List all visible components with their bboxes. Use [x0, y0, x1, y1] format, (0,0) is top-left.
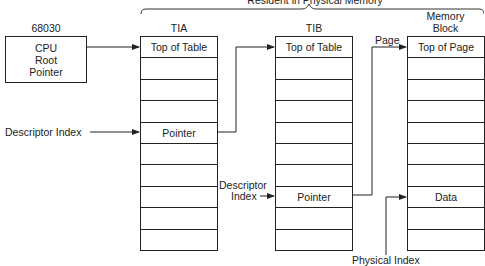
page-label: Page: [375, 34, 400, 46]
tia-title: TIA: [140, 22, 218, 34]
tib-row: [276, 165, 352, 186]
memory-block-row: [408, 80, 484, 101]
descriptor-index-label-tia: Descriptor Index: [5, 126, 81, 138]
cpu-line: CPU: [35, 42, 57, 54]
tia-row: [141, 58, 217, 79]
memory-block-row: [408, 144, 484, 165]
arrow-tib-pointer-to-page: [353, 47, 406, 195]
resident-label: Resident in Physical Memory: [245, 0, 385, 6]
cpu-root-pointer-box: CPU Root Pointer: [5, 36, 87, 83]
tib-row: [276, 80, 352, 101]
memory-block-row: [408, 123, 484, 144]
tia-row: [141, 80, 217, 101]
tia-row: [141, 101, 217, 122]
tib-row: [276, 101, 352, 122]
cpu-caption: 68030: [5, 22, 87, 34]
tib-table: Top of TablePointer: [275, 36, 353, 251]
tib-row: Top of Table: [276, 37, 352, 58]
memory-block-row: [408, 230, 484, 251]
arrow-tia-pointer-to-tib: [218, 47, 274, 132]
tib-row: [276, 144, 352, 165]
cpu-line: Root: [35, 54, 57, 66]
tia-row: [141, 165, 217, 186]
tib-title: TIB: [275, 22, 353, 34]
tib-row: Pointer: [276, 187, 352, 208]
descriptor-index-label-tib-line2: Index: [231, 190, 257, 202]
tia-row: Pointer: [141, 123, 217, 144]
memory-block-table: Top of PageData: [407, 36, 485, 251]
tib-row: [276, 230, 352, 251]
memory-block-row: Data: [408, 187, 484, 208]
memory-block-row: [408, 165, 484, 186]
tib-row: [276, 58, 352, 79]
tib-row: [276, 208, 352, 229]
tia-row: [141, 187, 217, 208]
memory-block-row: [408, 58, 484, 79]
memory-block-row: [408, 208, 484, 229]
memory-block-row: Top of Page: [408, 37, 484, 58]
tia-row: Top of Table: [141, 37, 217, 58]
memory-block-row: [408, 101, 484, 122]
tib-row: [276, 123, 352, 144]
memory-block-title-line1: Memory: [407, 10, 484, 22]
physical-index-label: Physical Index: [352, 254, 420, 266]
arrow-physical-index-to-data: [386, 197, 406, 255]
tia-row: [141, 208, 217, 229]
cpu-line: Pointer: [29, 66, 62, 78]
tia-table: Top of TablePointer: [140, 36, 218, 251]
tia-row: [141, 230, 217, 251]
memory-block-title-line2: Block: [407, 22, 484, 34]
tia-row: [141, 144, 217, 165]
